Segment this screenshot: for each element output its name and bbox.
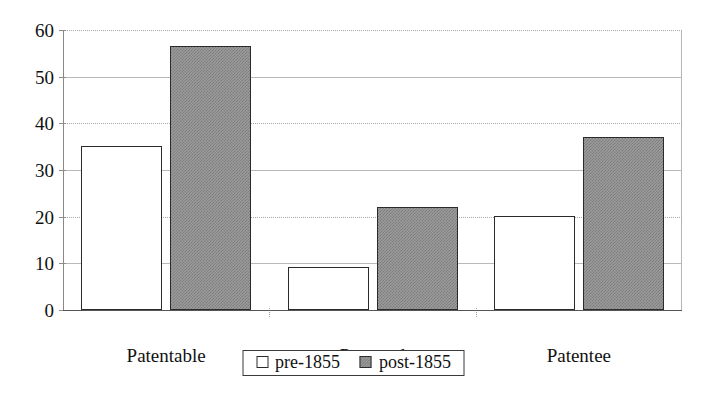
y-tick-label-10: 10: [35, 254, 54, 273]
legend-label-post-1855: post-1855: [379, 353, 451, 371]
y-tick-label-0: 0: [45, 301, 55, 320]
bar-patentee-post-1855: [583, 137, 664, 310]
y-tick-mark-20: [59, 217, 66, 218]
x-axis-label-patentable: Patentable: [127, 346, 206, 365]
bar-patentable-pre-1855: [81, 146, 162, 310]
y-tick-mark-50: [59, 77, 66, 78]
legend-entry-post-1855: post-1855: [360, 353, 451, 371]
y-tick-mark-10: [59, 263, 66, 264]
legend-entry-pre-1855: pre-1855: [256, 353, 340, 371]
y-tick-label-60: 60: [35, 21, 54, 40]
bar-patentable-post-1855: [170, 46, 251, 310]
bar-chart-figure: 0102030405060 PatentablePatentedPatentee…: [0, 0, 707, 393]
y-tick-label-50: 50: [35, 67, 54, 86]
y-tick-label-20: 20: [35, 207, 54, 226]
legend-label-pre-1855: pre-1855: [275, 353, 340, 371]
y-tick-mark-30: [59, 170, 66, 171]
chart-legend: pre-1855 post-1855: [242, 350, 465, 376]
y-tick-label-40: 40: [35, 114, 54, 133]
legend-swatch-pre-1855-icon: [256, 356, 268, 368]
plot-area: 0102030405060 PatentablePatentedPatentee: [63, 30, 682, 311]
bar-patented-post-1855: [377, 207, 458, 310]
y-tick-mark-60: [59, 30, 66, 31]
legend-swatch-post-1855-icon: [360, 356, 372, 368]
bar-patented-pre-1855: [288, 267, 369, 310]
y-tick-label-30: 30: [35, 161, 54, 180]
gridline-60: [63, 30, 682, 31]
gridline-40: [63, 123, 682, 124]
bar-patentee-pre-1855: [494, 216, 575, 310]
gridline-50: [63, 77, 682, 78]
x-axis-line: [63, 310, 682, 311]
x-axis-label-patentee: Patentee: [547, 346, 611, 365]
y-tick-mark-40: [59, 123, 66, 124]
